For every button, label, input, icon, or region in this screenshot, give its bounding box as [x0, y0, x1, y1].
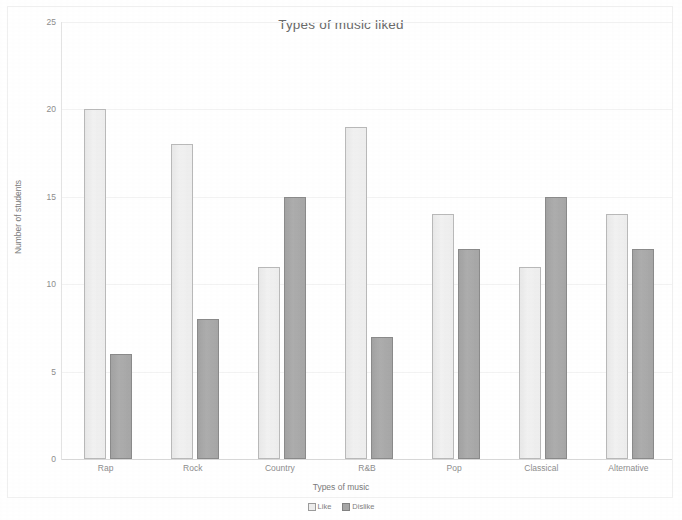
x-axis-tick-label: Country [235, 463, 325, 473]
bar-like-rock[interactable] [171, 144, 193, 459]
y-axis-tick-label: 0 [10, 454, 56, 464]
x-axis-tick-label: R&B [322, 463, 412, 473]
legend-swatch-icon [308, 503, 316, 511]
legend-swatch-icon [342, 503, 350, 511]
legend-item-like[interactable]: Like [308, 503, 332, 511]
x-axis-tick-label: Classical [496, 463, 586, 473]
bar-group [519, 22, 567, 459]
bar-like-alternative[interactable] [606, 214, 628, 459]
y-axis-tick-label: 5 [10, 367, 56, 377]
bars-layer [62, 22, 672, 459]
x-axis-tick-label: Alternative [583, 463, 673, 473]
bar-group [84, 22, 132, 459]
legend-label: Like [318, 503, 332, 511]
bar-group [606, 22, 654, 459]
bar-dislike-pop[interactable] [458, 249, 480, 459]
y-axis-title: Number of students [13, 147, 23, 287]
bar-like-classical[interactable] [519, 267, 541, 459]
bar-dislike-alternative[interactable] [632, 249, 654, 459]
bar-group [258, 22, 306, 459]
chart-legend: LikeDislike [0, 503, 682, 511]
x-axis-tick-label: Rap [61, 463, 151, 473]
x-axis-line [62, 459, 672, 460]
bar-like-country[interactable] [258, 267, 280, 459]
y-axis-tick-label: 25 [10, 17, 56, 27]
bar-like-rap[interactable] [84, 109, 106, 459]
y-axis-tick-label: 20 [10, 104, 56, 114]
bar-group [171, 22, 219, 459]
bar-group [432, 22, 480, 459]
x-axis-tick-labels: RapRockCountryR&BPopClassicalAlternative [62, 463, 672, 483]
bar-dislike-r-b[interactable] [371, 337, 393, 459]
bar-dislike-country[interactable] [284, 197, 306, 459]
bar-like-r-b[interactable] [345, 127, 367, 459]
x-axis-tick-label: Pop [409, 463, 499, 473]
legend-label: Dislike [352, 503, 374, 511]
y-axis-tick-labels: 2520151050 [0, 0, 56, 520]
x-axis-title: Types of music [0, 482, 682, 492]
bar-dislike-rock[interactable] [197, 319, 219, 459]
bar-group [345, 22, 393, 459]
bar-dislike-rap[interactable] [110, 354, 132, 459]
legend-item-dislike[interactable]: Dislike [342, 503, 374, 511]
bar-dislike-classical[interactable] [545, 197, 567, 459]
bar-like-pop[interactable] [432, 214, 454, 459]
x-axis-tick-label: Rock [148, 463, 238, 473]
